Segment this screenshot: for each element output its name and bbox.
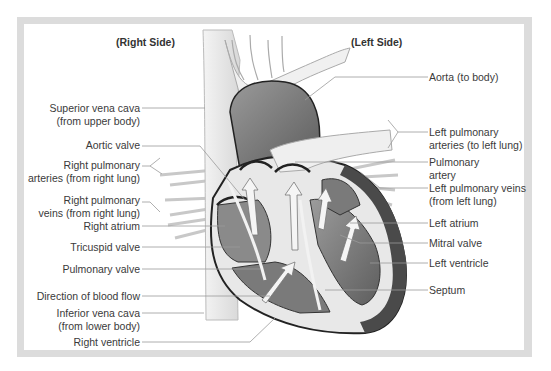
header-right-side: (Right Side) [116,36,175,48]
label-pulmonary-valve: Pulmonary valve [62,263,140,276]
label-septum: Septum [429,284,465,297]
label-pulmonary-artery: Pulmonary artery [429,156,479,182]
label-right-pulmonary-arteries: Right pulmonary arteries (from right lun… [28,159,140,185]
right-atrium [218,200,271,262]
label-aorta: Aorta (to body) [429,71,498,84]
label-aortic-valve: Aortic valve [86,139,140,152]
label-left-pulmonary-veins: Left pulmonary veins (from left lung) [429,182,526,208]
label-right-ventricle: Right ventricle [73,336,140,349]
label-superior-vena-cava: Superior vena cava (from upper body) [50,102,140,128]
header-left-side: (Left Side) [351,36,402,48]
label-right-atrium: Right atrium [83,220,140,233]
label-direction-of-blood-flow: Direction of blood flow [37,290,140,303]
label-mitral-valve: Mitral valve [429,237,482,250]
label-right-pulmonary-veins: Right pulmonary veins (from right lung) [38,194,140,220]
label-left-pulmonary-arteries: Left pulmonary arteries (to left lung) [429,126,522,152]
label-tricuspid-valve: Tricuspid valve [70,241,140,254]
label-left-ventricle: Left ventricle [429,257,489,270]
label-inferior-vena-cava: Inferior vena cava (from lower body) [57,307,140,333]
label-left-atrium: Left atrium [429,217,479,230]
